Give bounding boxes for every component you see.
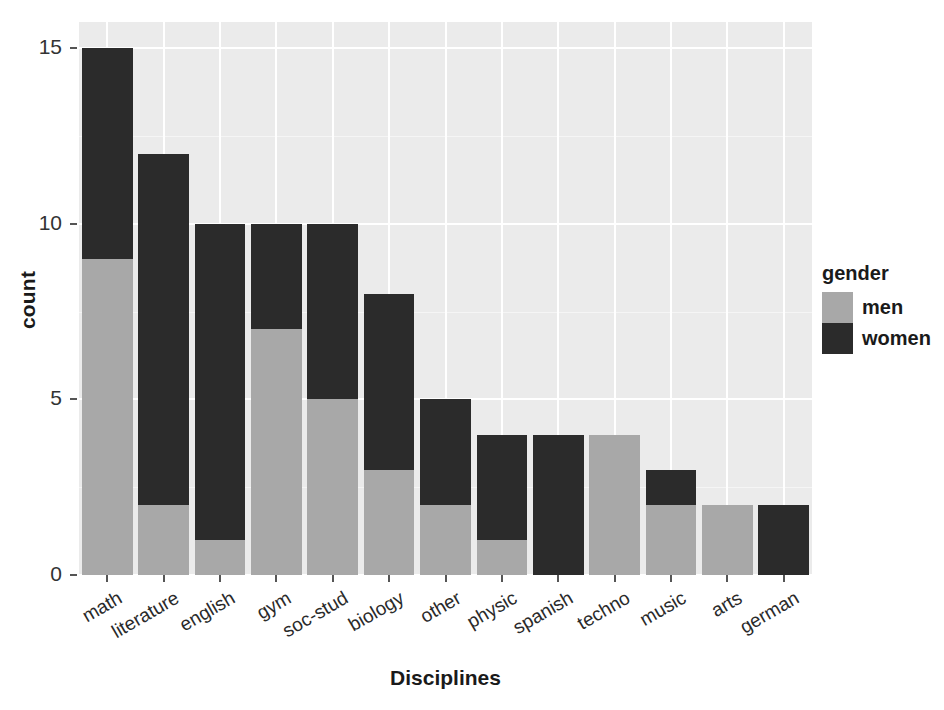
legend-item-women[interactable]: women — [822, 323, 940, 354]
bar-english[interactable] — [195, 22, 246, 575]
legend-swatch-men — [822, 292, 853, 323]
bar-segment-men[interactable] — [420, 505, 471, 575]
bar-segment-women[interactable] — [138, 154, 189, 505]
legend-swatch-women — [822, 323, 853, 354]
bar-segment-women[interactable] — [307, 224, 358, 400]
bar-german[interactable] — [758, 22, 809, 575]
bar-segment-women[interactable] — [364, 294, 415, 470]
x-tick-mark — [445, 575, 447, 582]
legend-title: gender — [822, 262, 940, 285]
bar-techno[interactable] — [589, 22, 640, 575]
bar-segment-men[interactable] — [589, 435, 640, 575]
legend-label-women: women — [862, 327, 931, 350]
bar-chart: count 051015 mathliteratureenglishgymsoc… — [0, 0, 944, 710]
x-tick-mark — [726, 575, 728, 582]
bar-segment-men[interactable] — [646, 505, 697, 575]
y-tick-label-15: 15 — [0, 35, 62, 59]
y-tick-mark — [70, 398, 77, 400]
plot-panel — [79, 22, 812, 575]
bar-segment-men[interactable] — [307, 399, 358, 575]
bar-gym[interactable] — [251, 22, 302, 575]
bar-biology[interactable] — [364, 22, 415, 575]
bar-segment-women[interactable] — [82, 48, 133, 259]
y-tick-mark — [70, 47, 77, 49]
bar-segment-men[interactable] — [82, 259, 133, 575]
y-axis-title: count — [10, 10, 46, 590]
bar-segment-men[interactable] — [138, 505, 189, 575]
bar-segment-women[interactable] — [251, 224, 302, 329]
y-tick-label-5: 5 — [0, 386, 62, 410]
bar-segment-women[interactable] — [533, 435, 584, 575]
legend-item-men[interactable]: men — [822, 292, 940, 323]
x-tick-mark — [501, 575, 503, 582]
bar-physic[interactable] — [477, 22, 528, 575]
bar-segment-women[interactable] — [646, 470, 697, 505]
bar-segment-women[interactable] — [477, 435, 528, 540]
bar-segment-women[interactable] — [758, 505, 809, 575]
x-tick-mark — [106, 575, 108, 582]
bar-literature[interactable] — [138, 22, 189, 575]
x-tick-mark — [219, 575, 221, 582]
legend-label-men: men — [862, 296, 903, 319]
y-tick-mark — [70, 574, 77, 576]
legend: gender menwomen — [822, 262, 940, 354]
y-tick-label-0: 0 — [0, 562, 62, 586]
x-tick-mark — [783, 575, 785, 582]
bar-segment-men[interactable] — [195, 540, 246, 575]
bar-other[interactable] — [420, 22, 471, 575]
x-tick-mark — [388, 575, 390, 582]
bar-spanish[interactable] — [533, 22, 584, 575]
bar-segment-women[interactable] — [195, 224, 246, 540]
bar-math[interactable] — [82, 22, 133, 575]
bar-segment-men[interactable] — [251, 329, 302, 575]
bar-soc-stud[interactable] — [307, 22, 358, 575]
y-tick-mark — [70, 223, 77, 225]
x-tick-mark — [614, 575, 616, 582]
bar-music[interactable] — [646, 22, 697, 575]
x-axis-title: Disciplines — [79, 666, 812, 690]
x-tick-mark — [275, 575, 277, 582]
bar-arts[interactable] — [702, 22, 753, 575]
x-tick-mark — [670, 575, 672, 582]
x-tick-mark — [163, 575, 165, 582]
bar-segment-women[interactable] — [420, 399, 471, 504]
x-tick-mark — [557, 575, 559, 582]
y-tick-label-10: 10 — [0, 211, 62, 235]
bar-segment-men[interactable] — [477, 540, 528, 575]
legend-entries: menwomen — [822, 292, 940, 354]
bar-segment-men[interactable] — [364, 470, 415, 575]
x-tick-mark — [332, 575, 334, 582]
bar-segment-men[interactable] — [702, 505, 753, 575]
